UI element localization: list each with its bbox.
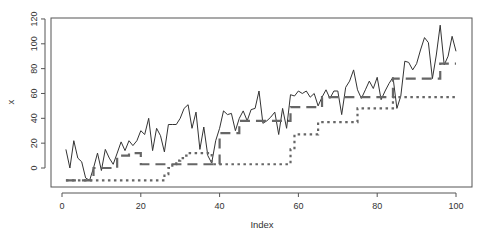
x-axis: 020406080100: [59, 193, 463, 211]
y-tick-label: 20: [29, 138, 39, 148]
x-tick-label: 80: [372, 201, 382, 211]
y-tick-label: 0: [29, 165, 39, 170]
series-layer: [66, 25, 456, 180]
y-tick-label: 40: [29, 113, 39, 123]
series-step-dashed: [66, 64, 456, 181]
y-tick-label: 100: [29, 36, 39, 51]
y-axis: 020406080100120: [29, 11, 45, 170]
x-axis-title: Index: [250, 219, 273, 230]
y-axis-title: x: [5, 99, 16, 104]
x-tick-label: 0: [59, 201, 64, 211]
y-tick-label: 60: [29, 88, 39, 98]
y-tick-label: 120: [29, 11, 39, 26]
x-tick-label: 20: [136, 201, 146, 211]
x-tick-label: 60: [293, 201, 303, 211]
line-chart: 020406080100 020406080100120 Index x: [0, 0, 487, 235]
x-tick-label: 40: [215, 201, 225, 211]
x-tick-label: 100: [448, 201, 463, 211]
y-tick-label: 80: [29, 64, 39, 74]
series-x: [66, 25, 456, 180]
